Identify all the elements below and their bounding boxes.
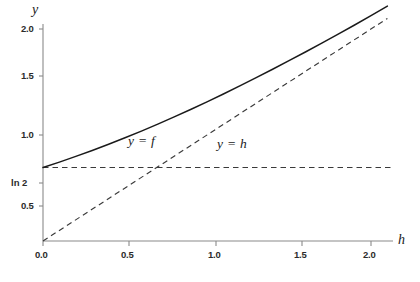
x-axis-ticks [43, 241, 371, 246]
x-axis-label: h [398, 233, 405, 247]
y-tick-label-0-5: 0.5 [21, 201, 34, 211]
x-tick-label-2-0: 2.0 [363, 250, 376, 260]
y-tick-label-1-5: 1.5 [21, 71, 34, 81]
plot-canvas [0, 0, 420, 282]
identity-line-y-equals-h [43, 18, 387, 241]
curve-y-equals-f [43, 6, 387, 167]
y-tick-label-1-0: 1.0 [21, 130, 34, 140]
y-tick-label-2-0: 2.0 [21, 24, 34, 34]
y-tick-label-ln2: ln 2 [11, 178, 27, 188]
y-axis-ticks [39, 29, 43, 206]
curve-label-y-equals-f: y = f [128, 134, 155, 148]
x-tick-label-1-0: 1.0 [208, 250, 221, 260]
y-axis-label: y [32, 3, 38, 17]
x-tick-label-1-5: 1.5 [294, 250, 307, 260]
chart-figure: y h 2.0 1.5 1.0 ln 2 0.5 0.0 0.5 1.0 1.5… [0, 0, 420, 282]
x-tick-label-0-0: 0.0 [35, 250, 48, 260]
x-tick-label-0-5: 0.5 [121, 250, 134, 260]
curve-label-y-equals-h: y = h [217, 137, 247, 151]
